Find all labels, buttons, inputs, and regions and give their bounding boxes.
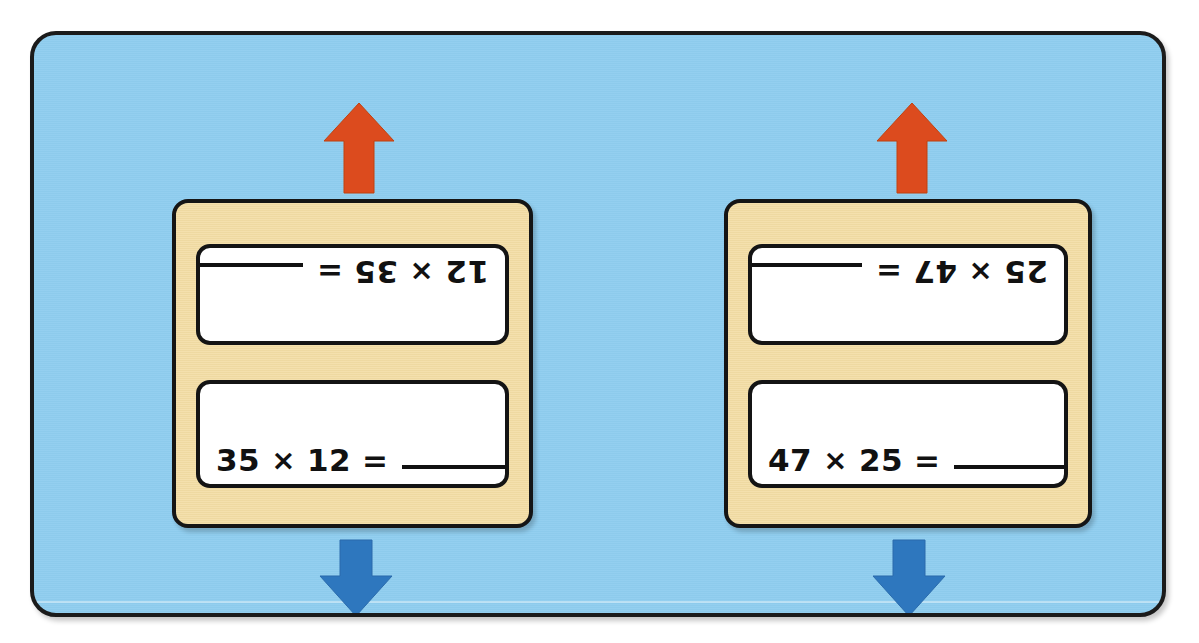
worksheet-stage: 12 × 35 = 35 × 12 = (0, 0, 1199, 643)
multiply-operator: × (823, 446, 848, 475)
arrow-down-icon (318, 538, 394, 617)
equation-text: 47 × 25 = (768, 445, 1068, 476)
multiply-operator: × (968, 257, 993, 286)
equation-rotated-wrapper: 25 × 47 = (752, 248, 1064, 341)
factor-b: 35 (354, 256, 398, 287)
factor-b: 12 (307, 445, 351, 476)
worksheet-panel: 12 × 35 = 35 × 12 = (30, 31, 1166, 617)
factor-a: 35 (216, 445, 260, 476)
arrow-down-icon (871, 538, 947, 617)
arrow-up-icon (875, 101, 949, 195)
task-card: 25 × 47 = 47 × 25 = (724, 199, 1092, 528)
equation-text: 35 × 12 = (216, 445, 509, 476)
multiply-operator: × (271, 446, 296, 475)
equals-sign: = (362, 445, 388, 476)
factor-a: 25 (1004, 256, 1048, 287)
equation-text: 12 × 35 = (196, 256, 489, 287)
arrow-up-icon (322, 101, 396, 195)
answer-blank[interactable] (748, 263, 862, 287)
equals-sign: = (316, 256, 342, 287)
equation-box-upright[interactable]: 47 × 25 = (748, 380, 1068, 488)
panel-bottom-rule (34, 601, 1162, 603)
equation-box-rotated[interactable]: 25 × 47 = (748, 244, 1068, 345)
multiply-operator: × (409, 257, 434, 286)
equals-sign: = (914, 445, 940, 476)
equation-text: 25 × 47 = (748, 256, 1048, 287)
answer-blank[interactable] (402, 445, 509, 469)
equals-sign: = (875, 256, 901, 287)
equation-rotated-wrapper: 12 × 35 = (200, 248, 505, 341)
factor-b: 25 (859, 445, 903, 476)
equation-box-upright[interactable]: 35 × 12 = (196, 380, 509, 488)
answer-blank[interactable] (954, 445, 1068, 469)
factor-b: 47 (913, 256, 957, 287)
factor-a: 12 (445, 256, 489, 287)
task-card: 12 × 35 = 35 × 12 = (172, 199, 533, 528)
equation-upright-wrapper: 35 × 12 = (200, 384, 505, 484)
equation-upright-wrapper: 47 × 25 = (752, 384, 1064, 484)
answer-blank[interactable] (196, 263, 303, 287)
factor-a: 47 (768, 445, 812, 476)
equation-box-rotated[interactable]: 12 × 35 = (196, 244, 509, 345)
